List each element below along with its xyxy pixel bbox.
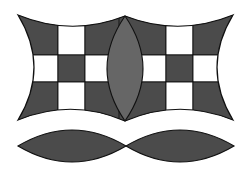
right-grid-cell <box>166 82 193 129</box>
upper-block <box>11 8 240 129</box>
lower-lenses <box>18 130 234 162</box>
right-grid-cell <box>166 55 193 82</box>
left-grid-cell <box>58 55 85 82</box>
lower-right-lens <box>126 130 234 162</box>
right-grid-cell <box>193 82 240 129</box>
left-grid-cell <box>58 8 85 55</box>
right-grid-cell <box>166 8 193 55</box>
geometric-figure <box>0 0 246 171</box>
left-grid-cell <box>11 82 58 129</box>
left-grid-cell <box>58 82 85 129</box>
lower-left-lens <box>18 130 126 162</box>
